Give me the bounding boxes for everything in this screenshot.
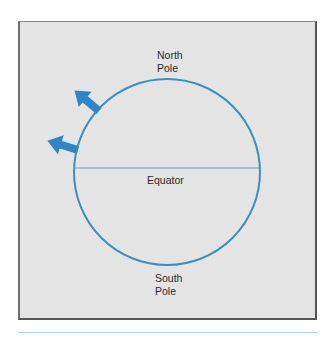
bottom-rule [18, 332, 318, 333]
equator-label: Equator [147, 174, 184, 187]
upper-arrow-icon [68, 83, 105, 119]
earth-circle [74, 79, 260, 265]
north-pole-label: North Pole [157, 49, 183, 75]
south-pole-label-line1: South [155, 272, 182, 285]
south-pole-label-line2: Pole [155, 285, 182, 298]
south-pole-label: South Pole [155, 272, 182, 298]
north-pole-label-line2: Pole [157, 62, 183, 75]
north-pole-label-line1: North [157, 49, 183, 62]
